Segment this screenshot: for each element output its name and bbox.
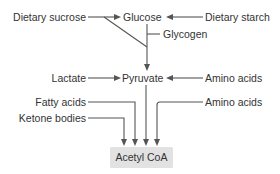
edge-fattyacids-acetylcoa (88, 102, 135, 140)
node-amino-acids-acetyl: Amino acids (205, 96, 262, 108)
arrowhead-icon (166, 75, 173, 81)
edge-ketones-acetylcoa (88, 118, 124, 140)
node-lactate: Lactate (52, 72, 87, 84)
node-dietary-starch: Dietary starch (205, 11, 270, 23)
node-dietary-sucrose: Dietary sucrose (13, 11, 86, 23)
node-amino-acids-pyruvate: Amino acids (205, 72, 262, 84)
edge-aminoacids-acetylcoa (157, 102, 203, 140)
node-glycogen: Glycogen (163, 28, 208, 40)
arrowhead-icon (154, 139, 160, 146)
arrowhead-icon (144, 64, 150, 71)
arrowhead-icon (132, 139, 138, 146)
node-glucose: Glucose (123, 11, 162, 23)
arrowhead-icon (143, 139, 149, 146)
node-ketone-bodies: Ketone bodies (19, 112, 86, 124)
node-pyruvate: Pyruvate (122, 72, 164, 84)
node-acetyl-coa: Acetyl CoA (116, 151, 168, 163)
metabolic-pathway-diagram: Dietary sucrose Glucose Dietary starch G… (0, 0, 280, 174)
node-fatty-acids: Fatty acids (35, 96, 86, 108)
arrowhead-icon (114, 75, 121, 81)
arrowhead-icon (166, 14, 173, 20)
arrowhead-icon (114, 14, 121, 20)
arrowhead-icon (121, 139, 127, 146)
